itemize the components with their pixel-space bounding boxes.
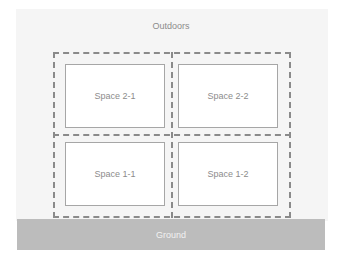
space-label: Space 1-2 [207,169,248,179]
space-label: Space 1-1 [94,169,135,179]
floor-partition [53,134,291,136]
outdoors-label: Outdoors [0,21,342,31]
space-2-1: Space 2-1 [65,64,165,128]
space-1-2: Space 1-2 [178,142,278,206]
space-2-2: Space 2-2 [178,64,278,128]
ground-bar: Ground [17,219,325,250]
space-label: Space 2-2 [207,91,248,101]
space-1-1: Space 1-1 [65,142,165,206]
space-label: Space 2-1 [94,91,135,101]
ground-label: Ground [156,230,186,240]
